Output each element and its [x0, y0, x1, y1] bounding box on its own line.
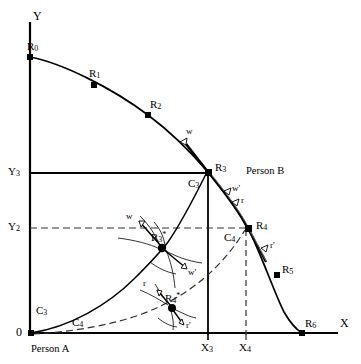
point-label-r6: R6: [305, 318, 316, 330]
frontier-highlight-upper: [186, 144, 208, 172]
point-label-r3: R3: [215, 162, 226, 174]
point-label-r1: R1: [89, 68, 100, 80]
axis-group: [28, 22, 338, 334]
x-axis-label: X: [340, 317, 349, 329]
point-marker-r6: [299, 330, 305, 336]
frontier-companion-upper: [189, 142, 210, 170]
point-label-r4-star: R4*: [165, 292, 180, 305]
point-marker-r4-star: [168, 304, 176, 312]
point-label-r5: R5: [282, 264, 293, 276]
origin-label: 0: [16, 326, 22, 338]
vector-label-r-prime-upper: r': [270, 241, 275, 250]
point-marker-r3-star: [158, 244, 166, 252]
x-tick-x3: X3: [201, 342, 213, 354]
point-label-r0: R0: [27, 41, 38, 53]
frontier-highlight-lower2: [249, 230, 266, 262]
vector-label-w-prime-upper: w': [232, 184, 240, 193]
diagram-svg: [0, 0, 361, 364]
x-tick-x4: X4: [239, 342, 251, 354]
y-tick-y3: Y3: [8, 166, 20, 178]
r-prime-arrow-marker: [261, 245, 268, 252]
person-a-label: Person A: [31, 344, 69, 355]
y-axis-label: Y: [33, 10, 42, 22]
origin-marker: [28, 330, 34, 336]
vector-label-w-prime-lower: w': [188, 268, 196, 277]
contract-label-c4-lower: C4: [72, 317, 83, 329]
point-marker-r4: [245, 225, 252, 232]
point-marker-r5: [274, 272, 280, 278]
figure-canvas: Y X 0 Y3 Y2 X3 X4 Person A Person B R0 R…: [0, 0, 361, 364]
point-marker-r3: [205, 169, 212, 176]
person-b-label: Person B: [246, 166, 284, 177]
point-marker-r0: [27, 54, 33, 60]
vector-label-w-upper: w: [186, 127, 193, 136]
point-label-r3-star: R3*: [151, 231, 166, 244]
vector-label-w-lower: w: [126, 212, 133, 221]
point-label-r4: R4: [256, 220, 267, 232]
vector-label-r-prime-lower: r': [186, 321, 191, 330]
vector-label-r-lower: r: [143, 279, 146, 288]
point-label-r2: R2: [150, 99, 161, 111]
point-marker-r1: [91, 82, 97, 88]
contract-label-c3-lower: C3: [36, 305, 47, 317]
vector-label-r-upper: r: [241, 196, 244, 205]
contract-label-c4-upper: C4: [224, 232, 235, 244]
y-tick-y2: Y2: [8, 221, 20, 233]
contract-curve-c4: [33, 230, 245, 334]
contract-curve-c3: [31, 174, 206, 333]
point-marker-r2: [145, 112, 151, 118]
contract-label-c3-upper: C3: [188, 178, 199, 190]
